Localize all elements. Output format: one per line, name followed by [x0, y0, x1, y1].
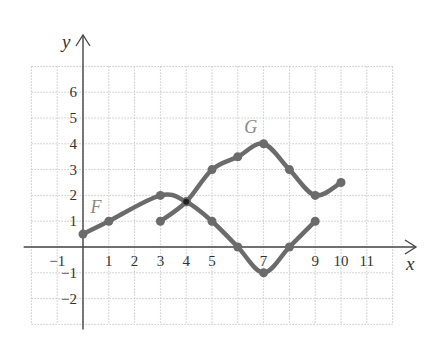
data-point	[259, 268, 268, 277]
x-tick-label: 3	[157, 253, 165, 269]
y-axis-label: y	[60, 31, 71, 52]
grid	[31, 66, 392, 324]
curve-g	[160, 144, 341, 222]
x-tick-label: 2	[131, 253, 139, 269]
y-tick-label: 2	[70, 187, 78, 203]
data-point	[208, 217, 217, 226]
data-point	[233, 152, 242, 161]
curve-label-f: F	[89, 197, 102, 217]
x-tick-label: 5	[208, 253, 216, 269]
data-point	[79, 230, 88, 239]
y-tick-label: 5	[70, 110, 78, 126]
intersection-point	[183, 199, 189, 205]
data-point	[259, 139, 268, 148]
curve-label-g: G	[244, 117, 257, 137]
data-point	[208, 165, 217, 174]
data-point	[285, 165, 294, 174]
data-point	[337, 178, 346, 187]
function-graph: −112345791011654321−1−2 FG x y	[0, 0, 438, 340]
x-tick-label: 1	[105, 253, 113, 269]
x-tick-label: 10	[334, 253, 349, 269]
data-point	[311, 217, 320, 226]
y-tick-label: 1	[70, 213, 78, 229]
y-tick-label: −2	[61, 291, 77, 307]
data-point	[233, 243, 242, 252]
y-tick-label: 3	[70, 162, 78, 178]
x-tick-label: 9	[311, 253, 319, 269]
data-point	[311, 191, 320, 200]
data-point	[156, 191, 165, 200]
x-tick-label: 7	[260, 253, 268, 269]
x-axis-label: x	[405, 253, 415, 274]
x-tick-label: 11	[360, 253, 374, 269]
x-tick-label: 4	[182, 253, 190, 269]
data-point	[104, 217, 113, 226]
data-point	[285, 243, 294, 252]
data-point	[156, 217, 165, 226]
y-tick-label: 6	[70, 84, 78, 100]
y-tick-label: 4	[70, 136, 78, 152]
y-tick-label: −1	[61, 265, 77, 281]
curve-f	[83, 194, 315, 272]
axes	[24, 35, 416, 330]
